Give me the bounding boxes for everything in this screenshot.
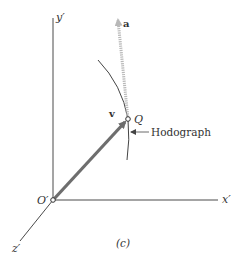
origin-marker [51, 198, 56, 203]
origin-label: O′ [37, 194, 49, 207]
point-q-label: Q [134, 113, 143, 126]
figure-caption: (c) [116, 237, 130, 249]
acceleration-vector [118, 20, 128, 119]
acceleration-label: a [123, 18, 130, 29]
y-axis-label: y′ [55, 11, 65, 24]
hodograph-label: Hodograph [151, 126, 211, 138]
hodograph-diagram: y′ x′ z′ O′ v a Q Hodograph (c) [0, 0, 243, 273]
velocity-label: v [108, 108, 116, 119]
velocity-vector [54, 122, 125, 199]
z-axis-label: z′ [11, 242, 21, 255]
x-axis-label: x′ [222, 193, 231, 206]
point-q-marker [126, 117, 131, 122]
